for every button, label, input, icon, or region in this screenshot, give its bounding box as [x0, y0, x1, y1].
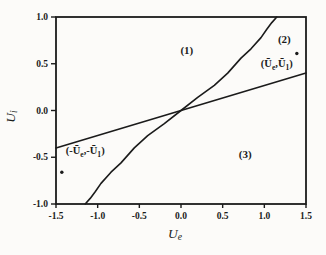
y-tick-label: -0.5: [33, 152, 48, 162]
region-label: (1): [180, 44, 193, 57]
x-tick-label: 0.0: [175, 211, 187, 221]
x-tick-label: 1.0: [258, 211, 270, 221]
equilibrium-point-positive-label: (Ūe,Ū1): [261, 58, 293, 71]
region-label: (2): [278, 33, 291, 46]
figure-canvas: -1.5-1.0-0.50.00.51.01.51.00.50.0-0.5-1.…: [0, 0, 326, 255]
y-axis-label: Ui: [3, 110, 19, 123]
x-tick-label: 1.5: [300, 211, 312, 221]
x-axis-label: Ue: [168, 226, 183, 242]
y-tick-label: 0.0: [36, 106, 48, 116]
y-tick-label: -1.0: [33, 199, 48, 209]
x-tick-label: -1.0: [90, 211, 105, 221]
linear-boundary-line: [56, 73, 306, 148]
x-tick-label: -1.5: [48, 211, 63, 221]
equilibrium-point-negative-marker: [60, 171, 63, 174]
y-tick-label: 0.5: [36, 59, 48, 69]
equilibrium-point-positive-marker: [295, 52, 298, 55]
x-tick-label: -0.5: [132, 211, 147, 221]
equilibrium-point-negative-label: (-Ūe,-Ū1): [66, 145, 105, 158]
region-label: (3): [239, 148, 252, 161]
y-tick-label: 1.0: [36, 12, 48, 22]
x-tick-label: 0.5: [217, 211, 229, 221]
phase-plane-chart: -1.5-1.0-0.50.00.51.01.51.00.50.0-0.5-1.…: [0, 0, 326, 255]
